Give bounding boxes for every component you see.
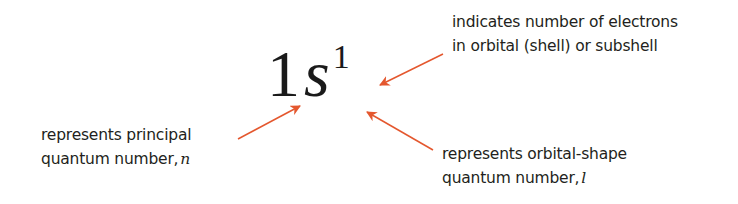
principal-quantum-number: 1 [267,37,300,110]
annotation-line: quantum number,l [442,166,627,190]
orbital-shape-letter: s [304,37,330,110]
arrow-to-orbital-shape [367,112,433,150]
principal-annotation: represents principal quantum number,n [41,123,191,171]
annotation-line: in orbital (shell) or subshell [452,34,678,58]
electron-count-superscript: 1 [333,38,350,75]
annotation-text: quantum number, [442,169,579,187]
variable-l: l [581,169,586,187]
annotation-line: indicates number of electrons [452,10,678,34]
annotation-line: represents principal [41,123,191,147]
variable-n: n [180,150,190,168]
annotation-text: quantum number, [41,150,178,168]
arrow-to-principal [238,106,300,139]
annotation-line: represents orbital-shape [442,142,627,166]
electron-configuration-notation: 1s1 [267,41,350,107]
annotation-line: quantum number,n [41,147,191,171]
electron-count-annotation: indicates number of electrons in orbital… [452,10,678,58]
orbital-shape-annotation: represents orbital-shape quantum number,… [442,142,627,190]
arrow-to-electron-count [380,54,443,85]
